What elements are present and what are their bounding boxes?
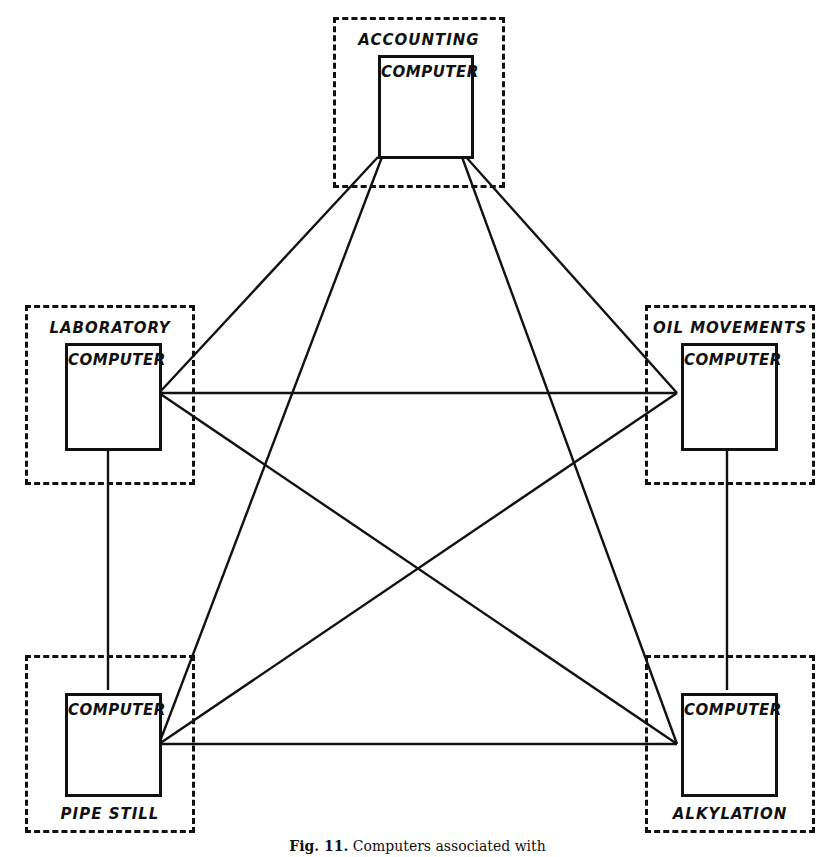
computer-box-label-pipe-still: COMPUTER <box>68 701 159 719</box>
node-label-oil-movements: OIL MOVEMENTS <box>648 319 812 337</box>
node-label-laboratory: LABORATORY <box>28 319 192 337</box>
computer-box-pipe-still[interactable]: COMPUTER <box>65 693 162 797</box>
figure-canvas: ACCOUNTINGCOMPUTERLABORATORYCOMPUTEROIL … <box>0 0 835 857</box>
node-oil-movements[interactable]: OIL MOVEMENTSCOMPUTER <box>645 305 815 485</box>
computer-box-label-oil-movements: COMPUTER <box>684 351 775 369</box>
computer-box-label-alkylation: COMPUTER <box>684 701 775 719</box>
node-laboratory[interactable]: LABORATORYCOMPUTER <box>25 305 195 485</box>
node-label-accounting: ACCOUNTING <box>336 31 502 49</box>
node-label-alkylation: ALKYLATION <box>648 805 812 823</box>
computer-box-laboratory[interactable]: COMPUTER <box>65 343 162 451</box>
node-alkylation[interactable]: ALKYLATIONCOMPUTER <box>645 655 815 833</box>
node-label-pipe-still: PIPE STILL <box>28 805 192 823</box>
node-accounting[interactable]: ACCOUNTINGCOMPUTER <box>333 17 505 188</box>
figure-caption-label: Fig. 11. <box>289 838 348 854</box>
computer-box-accounting[interactable]: COMPUTER <box>378 55 474 159</box>
figure-caption: Fig. 11. Computers associated with <box>0 838 835 854</box>
computer-box-label-accounting: COMPUTER <box>381 63 471 81</box>
figure-caption-text: Computers associated with <box>353 838 546 854</box>
computer-box-alkylation[interactable]: COMPUTER <box>681 693 778 797</box>
computer-box-label-laboratory: COMPUTER <box>68 351 159 369</box>
node-pipe-still[interactable]: PIPE STILLCOMPUTER <box>25 655 195 833</box>
computer-box-oil-movements[interactable]: COMPUTER <box>681 343 778 451</box>
